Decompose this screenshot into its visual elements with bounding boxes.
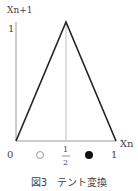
y-tick-1: 1 — [8, 24, 14, 34]
open-circle-marker — [37, 152, 44, 159]
tent-map-plot — [0, 0, 138, 191]
figure-caption: 図3 テント変換 — [0, 174, 138, 189]
x-tick-1: 1 — [111, 150, 117, 160]
y-axis-label: Xn+1 — [7, 5, 32, 15]
x-tick-0: 0 — [7, 150, 13, 160]
x-axis-label: Xn — [120, 139, 134, 149]
filled-circle-marker — [85, 151, 93, 159]
x-tick-half-denominator: 2 — [63, 158, 68, 168]
x-tick-half-numerator: 1 — [63, 145, 68, 155]
